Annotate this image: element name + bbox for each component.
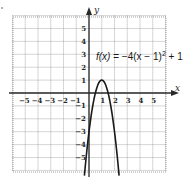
y-tick-label: −1	[75, 101, 86, 110]
y-axis-arrow-icon	[86, 7, 92, 15]
x-tick-label: −2	[57, 96, 68, 105]
y-tick-label: −3	[75, 127, 86, 136]
x-tick-label: 2	[113, 96, 118, 105]
y-tick-label: 2	[81, 63, 86, 72]
x-tick-label: 1	[100, 96, 105, 105]
function-equation-label: f(x) = −4(x − 1)2 + 1	[96, 50, 183, 62]
x-tick-labels: −5−4−3−2−112345	[19, 96, 156, 105]
x-tick-label: −5	[19, 96, 30, 105]
y-tick-label: 1	[81, 76, 86, 85]
y-tick-label: −5	[75, 153, 86, 162]
y-tick-label: −4	[75, 140, 86, 149]
x-tick-label: 5	[151, 96, 156, 105]
x-tick-label: −4	[32, 96, 43, 105]
equation-tail: + 1	[166, 51, 183, 62]
x-tick-label: 4	[139, 96, 144, 105]
x-tick-label: 3	[126, 96, 131, 105]
y-tick-label: 5	[81, 24, 86, 33]
x-tick-label: −3	[44, 96, 55, 105]
stray-mark	[1, 7, 3, 9]
equation-rhs: = −4(x − 1)	[110, 51, 161, 62]
equation-fx: f(x)	[96, 51, 110, 62]
y-tick-label: 4	[81, 37, 86, 46]
axes: x y	[9, 5, 180, 177]
y-tick-label: 3	[81, 50, 86, 59]
x-axis-label: x	[175, 83, 180, 93]
y-axis-label: y	[93, 5, 100, 15]
y-tick-label: −2	[75, 114, 86, 123]
coordinate-plane: x y −5−4−3−2−112345 54321−1−2−3−4−5 f(x)…	[0, 0, 184, 177]
